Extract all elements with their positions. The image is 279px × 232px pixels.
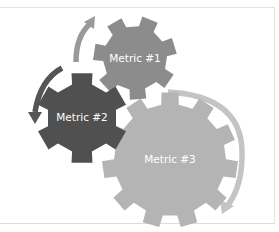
gear-label-metric-3: Metric #3 [144,153,195,165]
gear-label-metric-2: Metric #2 [56,111,107,123]
arrow-top-icon [76,16,95,62]
gear-label-metric-1: Metric #1 [109,52,160,64]
gear-diagram: Metric #1 Metric #2 Metric #3 [0,0,279,232]
